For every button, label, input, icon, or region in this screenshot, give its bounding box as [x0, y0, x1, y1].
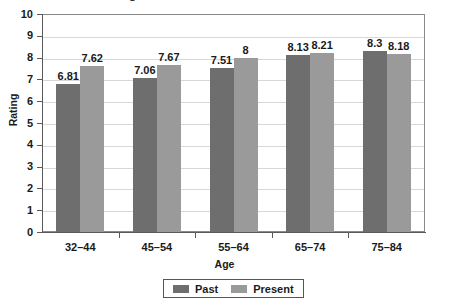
- y-axis-tick: [37, 167, 42, 168]
- x-axis-tick-label: 55–64: [194, 241, 274, 253]
- y-axis-tick-label: 2: [0, 183, 33, 194]
- x-axis-title: Age: [0, 258, 449, 270]
- y-axis-tick-label: 7: [0, 74, 33, 85]
- bar-value-label: 7.67: [146, 52, 192, 63]
- y-axis-tick-label: 6: [0, 96, 33, 107]
- y-axis-tick: [37, 188, 42, 189]
- bar-present-2: [234, 58, 258, 232]
- bar-present-4: [387, 54, 411, 232]
- bar-value-label: 7.62: [69, 53, 115, 64]
- x-axis-tick: [348, 233, 349, 238]
- legend-swatch-present: [231, 285, 247, 293]
- bar-value-label: 8.21: [299, 40, 345, 51]
- y-axis-tick: [37, 36, 42, 37]
- y-axis-line: [42, 14, 43, 233]
- y-axis-title: Rating: [7, 80, 19, 140]
- y-axis-tick-label: 8: [0, 52, 33, 63]
- bar-past-1: [133, 78, 157, 232]
- x-axis-line: [42, 232, 426, 233]
- y-axis-tick-label: 1: [0, 205, 33, 216]
- x-axis-tick-label: 45–54: [117, 241, 197, 253]
- legend-label-present: Present: [253, 283, 293, 295]
- y-axis-tick-label: 5: [0, 118, 33, 129]
- y-axis-tick: [37, 79, 42, 80]
- bar-present-0: [80, 66, 104, 232]
- bar-past-2: [210, 68, 234, 232]
- y-axis-tick-label: 9: [0, 30, 33, 41]
- y-axis-tick: [37, 210, 42, 211]
- legend-label-past: Past: [195, 283, 218, 295]
- x-axis-tick-label: 65–74: [270, 241, 350, 253]
- x-axis-tick: [272, 233, 273, 238]
- y-axis-tick-label: 10: [0, 9, 33, 20]
- bar-past-4: [363, 51, 387, 232]
- y-axis-tick: [37, 58, 42, 59]
- y-axis-tick: [37, 232, 42, 233]
- y-axis-tick: [37, 123, 42, 124]
- bar-past-0: [56, 84, 80, 232]
- y-axis-tick-label: 4: [0, 139, 33, 150]
- legend-swatch-past: [173, 285, 189, 293]
- bar-past-3: [286, 55, 310, 232]
- legend-item-past: Past: [173, 283, 218, 295]
- x-axis-tick: [195, 233, 196, 238]
- chart-title: Ratings of Past and Present Life Satisfa…: [0, 0, 449, 5]
- x-axis-tick: [119, 233, 120, 238]
- x-axis-tick-label: 32–44: [40, 241, 120, 253]
- y-axis-tick: [37, 145, 42, 146]
- chart-legend: Past Present: [163, 279, 304, 298]
- y-axis-tick-label: 3: [0, 161, 33, 172]
- legend-item-present: Present: [231, 283, 293, 295]
- x-axis-tick-label: 75–84: [347, 241, 427, 253]
- bar-present-3: [310, 53, 334, 232]
- y-axis-tick-label: 0: [0, 227, 33, 238]
- bar-value-label: 8.18: [376, 41, 422, 52]
- y-axis-tick: [37, 14, 42, 15]
- y-axis-tick: [37, 101, 42, 102]
- bar-present-1: [157, 65, 181, 232]
- bar-value-label: 8: [223, 45, 269, 56]
